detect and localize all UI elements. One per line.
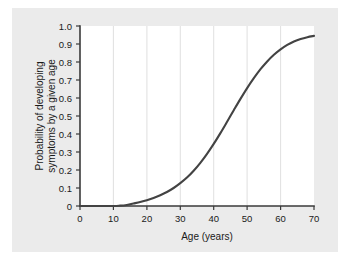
y-axis-title: Probability of developing symptoms by a … bbox=[34, 59, 57, 173]
ytick-label-0.7: 0.7 bbox=[59, 75, 72, 86]
x-tick-labels: 0 10 20 30 40 50 60 70 bbox=[77, 213, 319, 224]
ytick-label-0: 0 bbox=[67, 201, 72, 212]
ytick-label-0.9: 0.9 bbox=[59, 39, 72, 50]
figure-panel: 1.0 0.9 0.8 0.7 0.6 0.5 0.4 0.3 0.2 0.1 … bbox=[12, 8, 338, 252]
figure-inner: 1.0 0.9 0.8 0.7 0.6 0.5 0.4 0.3 0.2 0.1 … bbox=[12, 8, 338, 252]
xtick-label-70: 70 bbox=[309, 213, 320, 224]
plot-area-background bbox=[80, 26, 314, 206]
probability-by-age-chart: 1.0 0.9 0.8 0.7 0.6 0.5 0.4 0.3 0.2 0.1 … bbox=[12, 8, 338, 252]
xtick-label-50: 50 bbox=[242, 213, 253, 224]
ytick-label-0.8: 0.8 bbox=[59, 57, 72, 68]
ytick-label-1.0: 1.0 bbox=[59, 21, 72, 32]
ytick-label-0.2: 0.2 bbox=[59, 165, 72, 176]
xtick-label-0: 0 bbox=[77, 213, 82, 224]
xtick-label-20: 20 bbox=[142, 213, 153, 224]
ytick-label-0.5: 0.5 bbox=[59, 111, 72, 122]
x-axis-title: Age (years) bbox=[181, 231, 233, 242]
xtick-label-40: 40 bbox=[208, 213, 219, 224]
xtick-label-10: 10 bbox=[108, 213, 119, 224]
y-axis-title-line-2: symptoms by a given age bbox=[46, 59, 57, 173]
ytick-label-0.6: 0.6 bbox=[59, 93, 72, 104]
y-axis-title-line-1: Probability of developing bbox=[34, 62, 45, 171]
ytick-label-0.3: 0.3 bbox=[59, 147, 72, 158]
xtick-label-30: 30 bbox=[175, 213, 186, 224]
ytick-label-0.4: 0.4 bbox=[59, 129, 72, 140]
xtick-label-60: 60 bbox=[275, 213, 286, 224]
y-tick-labels: 1.0 0.9 0.8 0.7 0.6 0.5 0.4 0.3 0.2 0.1 … bbox=[59, 21, 72, 212]
ytick-label-0.1: 0.1 bbox=[59, 183, 72, 194]
